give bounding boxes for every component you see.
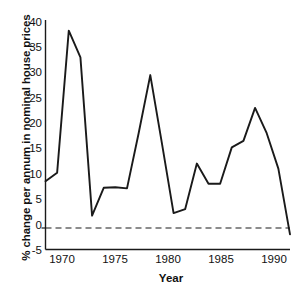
plot-area [0, 0, 307, 295]
data-line-series-0 [46, 31, 291, 235]
chart-figure: % change per annum in nominal house pric… [0, 0, 307, 295]
